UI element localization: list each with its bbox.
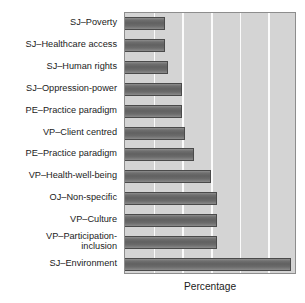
- category-label-column: SJ–PovertySJ–Healthcare accessSJ–Human r…: [0, 12, 121, 274]
- bar: [124, 127, 185, 140]
- category-label: SJ–Oppression-power: [0, 83, 117, 93]
- bar: [124, 236, 217, 249]
- bar: [124, 170, 211, 183]
- bar-row: [125, 236, 296, 249]
- bar-row: [125, 214, 296, 227]
- bar: [124, 148, 194, 161]
- category-label: SJ–Human rights: [0, 61, 117, 71]
- x-axis-title: Percentage: [124, 281, 296, 292]
- bar-row: [125, 148, 296, 161]
- bar: [124, 214, 217, 227]
- bar: [124, 39, 165, 52]
- bar: [124, 83, 182, 96]
- category-label: PE–Practice paradigm: [0, 148, 117, 158]
- category-label: VP–Culture: [0, 214, 117, 224]
- category-label: SJ–Environment: [0, 258, 117, 268]
- bar-row: [125, 61, 296, 74]
- bar-chart-figure: SJ–PovertySJ–Healthcare accessSJ–Human r…: [0, 0, 305, 303]
- bar-row: [125, 17, 296, 30]
- bar-row: [125, 258, 296, 271]
- category-label: PE–Practice paradigm: [0, 105, 117, 115]
- bar-row: [125, 83, 296, 96]
- bar-row: [125, 127, 296, 140]
- bar-row: [125, 39, 296, 52]
- category-label: OJ–Non-specific: [0, 192, 117, 202]
- bar-row: [125, 170, 296, 183]
- category-label: SJ–Healthcare access: [0, 39, 117, 49]
- bar-row: [125, 192, 296, 205]
- bar: [124, 105, 182, 118]
- category-label: SJ–Poverty: [0, 17, 117, 27]
- bar: [124, 17, 165, 30]
- bar: [124, 192, 217, 205]
- category-label: VP–Participation- inclusion: [0, 231, 117, 251]
- category-label: VP–Health-well-being: [0, 170, 117, 180]
- plot-area: [124, 12, 296, 274]
- bar-row: [125, 105, 296, 118]
- bar: [124, 61, 168, 74]
- bar: [124, 258, 291, 271]
- category-label: VP–Client centred: [0, 127, 117, 137]
